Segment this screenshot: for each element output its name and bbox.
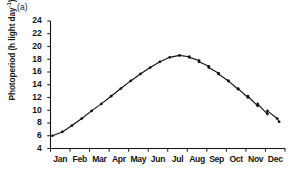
y-axis-tick-label: 8 [26, 117, 42, 127]
data-point [149, 66, 152, 69]
data-point [198, 60, 201, 63]
data-point [247, 95, 250, 98]
photoperiod-line [52, 55, 279, 135]
data-point [129, 80, 132, 83]
data-point [256, 103, 259, 106]
data-point [237, 87, 240, 90]
y-axis-tick-label: 24 [26, 15, 42, 25]
y-axis-tick-label: 20 [26, 41, 42, 51]
y-axis-tick-label: 10 [26, 105, 42, 115]
data-point [178, 54, 181, 57]
data-point [51, 134, 54, 137]
y-axis-tick-label: 12 [26, 92, 42, 102]
data-point [71, 124, 74, 127]
x-axis-tick-label: Dec [261, 154, 289, 164]
y-axis-tick-label: 14 [26, 79, 42, 89]
photoperiod-figure: (a) Photoperiod (h light day-1) 46810121… [0, 0, 294, 179]
data-point [139, 73, 142, 76]
data-point [188, 56, 191, 59]
data-point [80, 117, 83, 120]
data-point [120, 87, 123, 90]
data-point [266, 110, 269, 113]
y-axis-tick-label: 22 [26, 28, 42, 38]
data-point [266, 113, 269, 116]
axes [51, 21, 286, 149]
data-point [159, 60, 162, 63]
plot-area [0, 0, 294, 179]
y-axis-tick-label: 4 [26, 143, 42, 153]
data-point [227, 80, 230, 83]
data-point [90, 110, 93, 113]
data-point [168, 56, 171, 59]
data-point [61, 131, 64, 134]
data-point [110, 95, 113, 98]
data-point [207, 66, 210, 69]
y-axis-label: Photoperiod (h light day-1) [7, 0, 17, 109]
data-point [276, 117, 279, 120]
panel-label: (a) [17, 2, 28, 12]
y-axis-label-superscript: -1 [5, 2, 12, 7]
y-axis-label-paren: ) [7, 0, 17, 2]
y-axis-tick-label: 16 [26, 66, 42, 76]
y-axis-tick-label: 6 [26, 130, 42, 140]
y-axis-label-text: Photoperiod (h light day [7, 7, 17, 100]
data-point [100, 103, 103, 106]
y-axis-tick-label: 18 [26, 54, 42, 64]
data-point [278, 120, 281, 123]
data-point [217, 73, 220, 76]
